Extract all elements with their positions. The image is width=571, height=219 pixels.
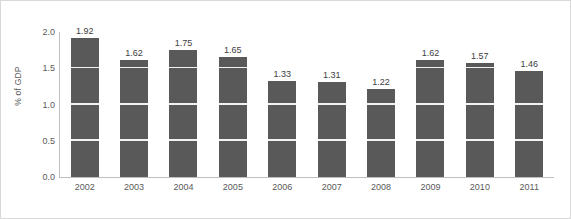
bar-slot: 1.22 bbox=[356, 32, 405, 177]
gridline bbox=[71, 139, 99, 141]
bar[interactable] bbox=[219, 57, 247, 177]
bar-slot: 1.31 bbox=[307, 32, 356, 177]
bar-slot: 1.92 bbox=[60, 32, 109, 177]
y-axis-tick-label: 0.5 bbox=[25, 136, 55, 146]
bar[interactable] bbox=[169, 50, 197, 177]
gridline bbox=[169, 67, 197, 69]
y-axis-tick-label: 1.5 bbox=[25, 63, 55, 73]
bar-chart-figure: % of GDP 0.00.51.01.52.0 1.921.621.751.6… bbox=[0, 0, 571, 219]
gridline bbox=[515, 103, 543, 105]
gridline bbox=[318, 139, 346, 141]
bar-value-label: 1.57 bbox=[471, 51, 489, 61]
gridline bbox=[219, 139, 247, 141]
gridline bbox=[120, 139, 148, 141]
x-axis-tick-label: 2006 bbox=[258, 182, 307, 192]
bar-slot: 1.62 bbox=[406, 32, 455, 177]
gridline bbox=[367, 139, 395, 141]
bar-slot: 1.75 bbox=[159, 32, 208, 177]
gridline bbox=[416, 139, 444, 141]
bar[interactable] bbox=[268, 81, 296, 177]
y-axis-tick-label: 0.0 bbox=[25, 172, 55, 182]
bar-slot: 1.33 bbox=[258, 32, 307, 177]
bar-value-label: 1.65 bbox=[224, 45, 242, 55]
gridline bbox=[367, 103, 395, 105]
x-axis-tick-label: 2010 bbox=[455, 182, 504, 192]
gridline bbox=[219, 103, 247, 105]
bar[interactable] bbox=[120, 60, 148, 177]
bar-value-label: 1.92 bbox=[76, 26, 94, 36]
gridline bbox=[466, 67, 494, 69]
y-axis-tick-labels: 0.00.51.01.52.0 bbox=[25, 32, 55, 177]
gridline bbox=[71, 67, 99, 69]
gridline bbox=[169, 139, 197, 141]
bar[interactable] bbox=[71, 38, 99, 177]
bar-value-label: 1.62 bbox=[422, 48, 440, 58]
x-axis-tick-label: 2009 bbox=[406, 182, 455, 192]
gridline bbox=[416, 103, 444, 105]
x-axis-tick-label: 2011 bbox=[505, 182, 554, 192]
gridline bbox=[268, 139, 296, 141]
x-axis-tick-label: 2002 bbox=[60, 182, 109, 192]
bar-value-label: 1.33 bbox=[274, 69, 292, 79]
gridline bbox=[71, 103, 99, 105]
bar-slot: 1.46 bbox=[505, 32, 554, 177]
x-axis-tick-label: 2003 bbox=[109, 182, 158, 192]
gridline bbox=[120, 103, 148, 105]
bar-value-label: 1.62 bbox=[125, 48, 143, 58]
bar-slot: 1.62 bbox=[109, 32, 158, 177]
bar[interactable] bbox=[515, 71, 543, 177]
bar-value-label: 1.31 bbox=[323, 70, 341, 80]
x-axis-tick-label: 2008 bbox=[356, 182, 405, 192]
gridline bbox=[169, 103, 197, 105]
bar[interactable] bbox=[367, 89, 395, 177]
gridline bbox=[219, 67, 247, 69]
bar-value-label: 1.22 bbox=[372, 77, 390, 87]
bar-slot: 1.65 bbox=[208, 32, 257, 177]
x-axis-tick-labels: 2002200320042005200620072008200920102011 bbox=[60, 182, 554, 198]
y-axis-tick-label: 2.0 bbox=[25, 27, 55, 37]
bar[interactable] bbox=[318, 82, 346, 177]
y-axis-tick-label: 1.0 bbox=[25, 100, 55, 110]
gridline bbox=[268, 103, 296, 105]
y-axis-title: % of GDP bbox=[13, 51, 23, 121]
bar-value-label: 1.75 bbox=[175, 38, 193, 48]
x-axis-line bbox=[59, 177, 554, 178]
gridline bbox=[466, 103, 494, 105]
bar-slot: 1.57 bbox=[455, 32, 504, 177]
x-axis-tick-label: 2004 bbox=[159, 182, 208, 192]
x-axis-tick-label: 2005 bbox=[208, 182, 257, 192]
gridline bbox=[318, 103, 346, 105]
gridline bbox=[416, 67, 444, 69]
x-axis-tick-label: 2007 bbox=[307, 182, 356, 192]
plot-area: 1.921.621.751.651.331.311.221.621.571.46 bbox=[60, 32, 554, 177]
gridline bbox=[120, 67, 148, 69]
bar[interactable] bbox=[416, 60, 444, 177]
gridline bbox=[466, 139, 494, 141]
bar-value-label: 1.46 bbox=[521, 59, 539, 69]
gridline bbox=[515, 139, 543, 141]
bar[interactable] bbox=[466, 63, 494, 177]
